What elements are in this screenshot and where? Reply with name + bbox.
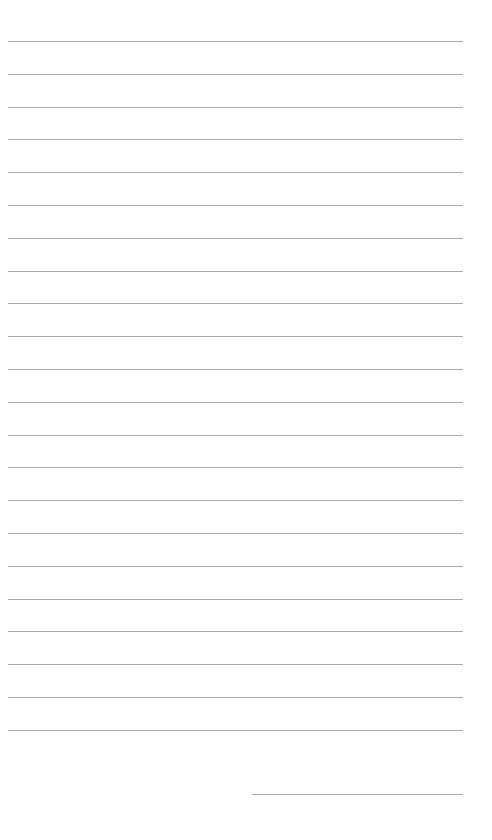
- ruled-line: [8, 336, 463, 337]
- ruled-line: [8, 271, 463, 272]
- ruled-line: [8, 631, 463, 632]
- ruled-line: [8, 238, 463, 239]
- ruled-line: [8, 369, 463, 370]
- ruled-line: [8, 697, 463, 698]
- ruled-line: [8, 730, 463, 731]
- ruled-line: [8, 402, 463, 403]
- ruled-line: [8, 139, 463, 140]
- signature-line: [252, 794, 463, 795]
- ruled-line: [8, 566, 463, 567]
- ruled-line: [8, 74, 463, 75]
- ruled-line: [8, 41, 463, 42]
- ruled-line: [8, 107, 463, 108]
- ruled-line: [8, 303, 463, 304]
- ruled-line: [8, 435, 463, 436]
- ruled-line: [8, 172, 463, 173]
- ruled-line: [8, 467, 463, 468]
- ruled-line: [8, 533, 463, 534]
- ruled-line: [8, 664, 463, 665]
- ruled-line: [8, 500, 463, 501]
- ruled-line: [8, 205, 463, 206]
- ruled-line: [8, 599, 463, 600]
- lined-paper-page: [0, 0, 492, 840]
